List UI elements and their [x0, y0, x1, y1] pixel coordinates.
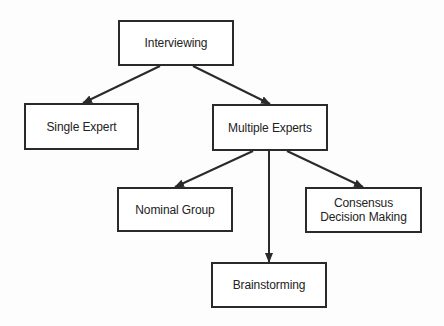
- node-brainstorming-label: Brainstorming: [233, 278, 306, 292]
- node-nominal-group-label: Nominal Group: [135, 203, 214, 217]
- node-interviewing-label: Interviewing: [145, 36, 208, 50]
- arrow-multiple-experts-to-nominal-group: [175, 151, 253, 187]
- node-nominal-group: Nominal Group: [117, 187, 233, 232]
- arrow-interviewing-to-multiple-experts: [193, 66, 270, 104]
- diagram-canvas: Interviewing Single Expert Multiple Expe…: [0, 0, 444, 326]
- node-brainstorming: Brainstorming: [211, 262, 327, 308]
- node-interviewing: Interviewing: [118, 20, 234, 66]
- node-consensus-decision-making: Consensus Decision Making: [305, 187, 422, 233]
- node-single-expert-label: Single Expert: [46, 120, 116, 134]
- arrow-interviewing-to-single-expert: [83, 66, 160, 103]
- arrow-multiple-experts-to-consensus: [287, 151, 363, 187]
- node-multiple-experts: Multiple Experts: [212, 104, 328, 151]
- node-consensus-decision-making-label: Consensus Decision Making: [320, 196, 407, 224]
- node-multiple-experts-label: Multiple Experts: [228, 121, 312, 135]
- node-single-expert: Single Expert: [24, 103, 139, 150]
